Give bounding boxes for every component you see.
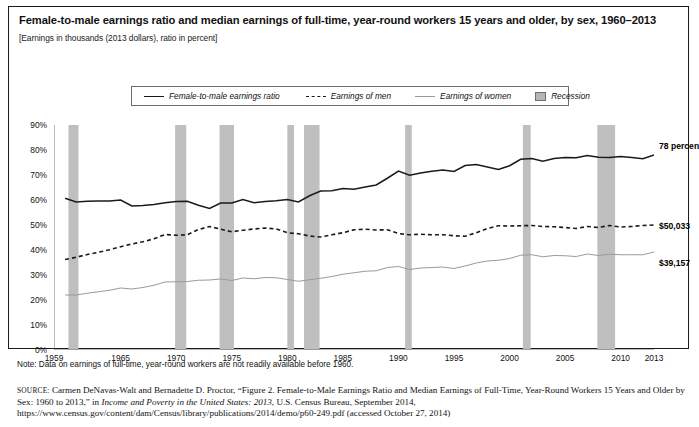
series-line-ratio: [65, 155, 654, 209]
y-axis-tick-label: 90%: [17, 120, 47, 130]
legend-item-recession: Recession: [535, 91, 590, 101]
y-axis-tick-label: 30%: [17, 270, 47, 280]
y-axis-tick-label: 60%: [17, 195, 47, 205]
figure-source: SOURCE: Carmen DeNavas-Walt and Bernadet…: [17, 385, 699, 420]
legend-item-men: Earnings of men: [306, 91, 391, 101]
series-line-men: [65, 225, 654, 260]
y-axis-tick-label: 10%: [17, 320, 47, 330]
figure-subtitle: [Earnings in thousands (2013 dollars), r…: [19, 33, 217, 43]
chart-plot-area: [54, 125, 654, 350]
recession-band: [287, 125, 294, 350]
legend-label-women: Earnings of women: [440, 91, 511, 101]
legend-label-ratio: Female-to-male earnings ratio: [169, 91, 280, 101]
recession-band: [68, 125, 78, 350]
ratio-end-label: 78 percent: [659, 141, 699, 151]
x-axis-tick-label: 2005: [545, 353, 585, 363]
figure-note: Note: Data on earnings of full-time, yea…: [17, 360, 353, 369]
dashed-line-swatch: [306, 92, 326, 101]
series-line-women: [65, 252, 654, 295]
source-publication-title: Income and Poverty in the United States:…: [101, 397, 271, 407]
solid-line-swatch: [144, 92, 164, 101]
chart-axes: [54, 125, 654, 350]
legend-label-men: Earnings of men: [331, 91, 391, 101]
recession-band: [175, 125, 186, 350]
x-axis-tick-label: 1995: [434, 353, 474, 363]
x-axis-tick-label: 1990: [378, 353, 418, 363]
thin-line-swatch: [415, 92, 435, 101]
figure-container: Female-to-male earnings ratio and median…: [8, 6, 689, 349]
page-title: Female-to-male earnings ratio and median…: [19, 14, 679, 27]
recession-band: [405, 125, 412, 350]
recession-band: [304, 125, 320, 350]
y-axis-tick-label: 20%: [17, 295, 47, 305]
recession-box-swatch: [535, 92, 546, 101]
y-axis-tick-label: 50%: [17, 220, 47, 230]
y-axis-tick-label: 70%: [17, 170, 47, 180]
women-earnings-end-label: $39,157: [659, 258, 690, 268]
chart-legend: Female-to-male earnings ratio Earnings o…: [131, 86, 569, 106]
y-axis-tick-label: 80%: [17, 145, 47, 155]
chart-svg: [54, 125, 654, 350]
x-axis-tick-label: 2000: [490, 353, 530, 363]
legend-item-ratio: Female-to-male earnings ratio: [144, 91, 280, 101]
legend-item-women: Earnings of women: [415, 91, 511, 101]
legend-label-recession: Recession: [551, 91, 590, 101]
source-label: SOURCE:: [17, 386, 50, 395]
men-earnings-end-label: $50,033: [659, 221, 690, 231]
recession-band: [597, 125, 615, 350]
recession-band: [220, 125, 234, 350]
y-axis-tick-label: 40%: [17, 245, 47, 255]
x-axis-tick-label: 2013: [634, 353, 674, 363]
